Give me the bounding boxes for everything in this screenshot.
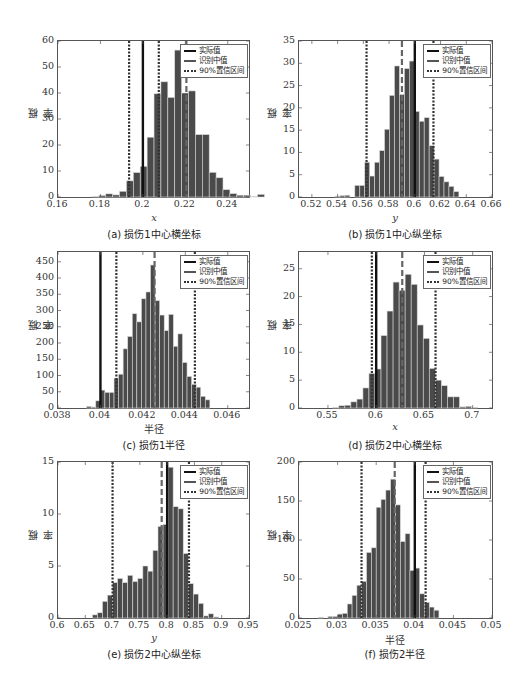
histogram-bar (390, 95, 395, 197)
histogram-bar (434, 610, 439, 618)
legend-f: 实际值识别中值90%置信区间 (423, 465, 491, 499)
histogram-bar (381, 336, 387, 408)
legend-median-label: 识别中值 (442, 477, 470, 487)
legend-ci-label: 90%置信区间 (442, 487, 487, 497)
y-tick-label: 0 (24, 191, 54, 201)
y-tick-label: 0 (265, 612, 295, 622)
caption-c: (c) 损伤1半径 (54, 437, 254, 452)
y-tick-label: 5 (24, 560, 54, 570)
y-tick-label: 15 (24, 456, 54, 466)
y-tick-label: 10 (265, 146, 295, 156)
legend-actual-swatch (427, 261, 439, 263)
histogram-bar (387, 311, 393, 408)
histogram-bar (257, 194, 264, 197)
legend-ci-swatch (184, 491, 196, 493)
histogram-bar (102, 601, 107, 618)
legend-actual-label: 实际值 (442, 257, 463, 267)
y-tick-label: 100 (265, 534, 295, 544)
histogram-bar (333, 407, 339, 408)
histogram-bar (357, 399, 363, 408)
legend-actual: 实际值 (427, 257, 487, 267)
histogram-bar (370, 176, 375, 197)
x-tick-label: 0.55 (307, 410, 347, 420)
x-tick-label: 0.04 (79, 410, 119, 420)
plot-area-b: 实际值识别中值90%置信区间 (298, 40, 493, 198)
legend-median: 识别中值 (184, 56, 244, 66)
histogram-bar (113, 195, 120, 197)
y-tick-label: 0 (265, 191, 295, 201)
histogram-bar (351, 402, 357, 408)
y-tick-label: 15 (265, 318, 295, 328)
y-tick-label: 0 (265, 402, 295, 412)
y-tick-label: 60 (24, 35, 54, 45)
histogram-bar (91, 407, 96, 408)
histogram-bar (363, 388, 369, 408)
legend-ci: 90%置信区间 (184, 66, 244, 76)
histogram-bar (400, 542, 405, 618)
legend-median-label: 识别中值 (199, 477, 227, 487)
legend-median: 识别中值 (184, 477, 244, 487)
x-tick-label: 0.22 (164, 199, 204, 209)
plot-area-f: 实际值识别中值90%置信区间 (298, 461, 493, 619)
x-tick-label: 0.18 (79, 199, 119, 209)
y-tick-label: 50 (265, 573, 295, 583)
histogram-bar (147, 137, 154, 197)
histogram-bar (429, 368, 435, 408)
histogram-bar (405, 534, 410, 618)
y-tick-label: 35 (265, 35, 295, 45)
y-tick-label: 10 (265, 346, 295, 356)
histogram-bar (133, 173, 140, 197)
legend-median-label: 识别中值 (442, 267, 470, 277)
legend-median-swatch (427, 481, 439, 483)
histogram-bar (97, 613, 102, 618)
histogram-bar (338, 614, 343, 618)
histogram-bar (119, 374, 124, 408)
caption-a: (a) 损伤1中心横坐标 (54, 226, 254, 241)
histogram-bar (164, 331, 169, 408)
histogram-bar (465, 406, 471, 408)
legend-median: 识别中值 (427, 477, 487, 487)
y-tick-label: 25 (265, 80, 295, 90)
histogram-bar (441, 386, 447, 408)
histogram-bar (143, 566, 148, 618)
histogram-bar (160, 315, 165, 408)
histogram-bar (133, 582, 138, 618)
legend-median: 识别中值 (427, 267, 487, 277)
histogram-bar (141, 299, 146, 408)
plot-area-e: 实际值识别中值90%置信区间 (57, 461, 250, 619)
histogram-bar (333, 616, 338, 618)
histogram-bar (453, 397, 459, 408)
histogram-bar (423, 338, 429, 408)
x-tick-label: 0.04 (394, 620, 434, 630)
y-tick-label: 300 (24, 305, 54, 315)
y-tick-label: 30 (265, 57, 295, 67)
histogram-bar (132, 314, 137, 408)
histogram-bar (92, 196, 99, 197)
histogram-bar (214, 617, 219, 618)
legend-ci-label: 90%置信区间 (442, 277, 487, 287)
x-tick-label: 0.24 (207, 199, 247, 209)
legend-median-label: 识别中值 (199, 267, 227, 277)
legend-median-swatch (184, 271, 196, 273)
histogram-bar (202, 135, 209, 197)
legend-actual-label: 实际值 (199, 467, 220, 477)
legend-actual-swatch (184, 471, 196, 473)
legend-ci: 90%置信区间 (427, 277, 487, 287)
histogram-bar (196, 387, 201, 408)
plot-area-a: 实际值识别中值90%置信区间 (57, 40, 250, 198)
histogram-bar (394, 66, 399, 197)
histogram-bar (393, 282, 399, 408)
legend-ci-swatch (427, 70, 439, 72)
legend-actual-label: 实际值 (442, 46, 463, 56)
y-tick-label: 40 (24, 87, 54, 97)
y-tick-label: 5 (265, 374, 295, 384)
histogram-bar (339, 406, 345, 408)
histogram-bar (182, 363, 187, 409)
histogram-bar (146, 292, 151, 408)
histogram-bar (223, 190, 230, 197)
histogram-bar (109, 392, 114, 408)
x-axis-label-f: 半径 (365, 632, 425, 647)
histogram-bar (205, 400, 210, 408)
y-tick-label: 30 (24, 113, 54, 123)
legend-ci: 90%置信区间 (184, 277, 244, 287)
